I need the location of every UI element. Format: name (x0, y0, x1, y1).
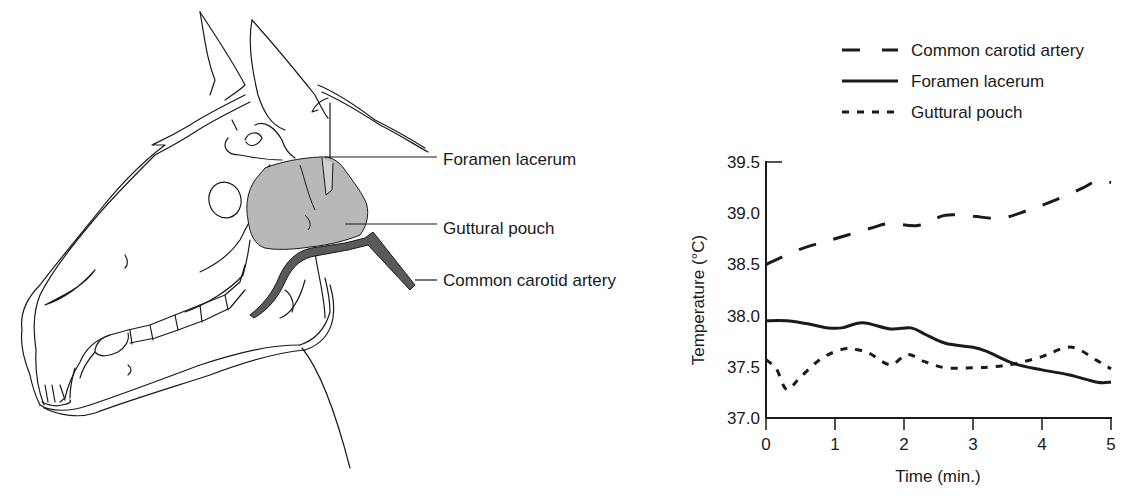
x-tick-label: 3 (968, 435, 977, 454)
y-tick-label: 38.0 (727, 307, 760, 326)
y-tick-label: 37.5 (727, 358, 760, 377)
y-axis-title: Temperature (°C) (689, 235, 708, 366)
y-tick-label: 37.0 (727, 409, 760, 428)
y-ticks: 37.037.538.038.539.039.5 (727, 153, 760, 428)
series-guttural-pouch (766, 347, 1111, 389)
chart-axes (766, 161, 1112, 418)
x-axis-title: Time (min.) (895, 467, 980, 486)
legend-label-guttural: Guttural pouch (911, 103, 1023, 122)
x-tick-label: 5 (1106, 435, 1115, 454)
label-foramen-lacerum: Foramen lacerum (443, 150, 576, 169)
legend (842, 50, 898, 112)
figure: Foramen lacerum Guttural pouch Common ca… (0, 0, 1128, 498)
x-ticks: 012345 (761, 418, 1115, 454)
series-common-carotid-artery (766, 180, 1111, 264)
legend-label-carotid: Common carotid artery (911, 41, 1084, 60)
x-tick-label: 4 (1037, 435, 1046, 454)
label-guttural-pouch: Guttural pouch (443, 219, 555, 238)
guttural-pouch-shape (247, 157, 368, 250)
y-tick-label: 39.0 (727, 204, 760, 223)
y-tick-label: 39.5 (727, 153, 760, 172)
x-tick-label: 1 (830, 435, 839, 454)
series-foramen-lacerum (766, 320, 1111, 382)
label-common-carotid-artery: Common carotid artery (443, 271, 616, 290)
x-tick-label: 2 (899, 435, 908, 454)
legend-label-foramen: Foramen lacerum (911, 72, 1044, 91)
y-tick-label: 38.5 (727, 255, 760, 274)
x-tick-label: 0 (761, 435, 770, 454)
series-layer (766, 180, 1111, 389)
